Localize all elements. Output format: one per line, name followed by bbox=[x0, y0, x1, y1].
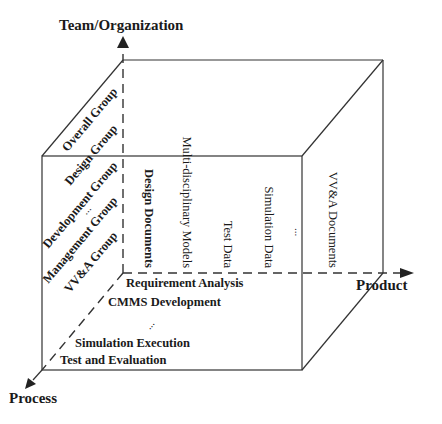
cube-diagram: Team/Organization Product Process Overal… bbox=[0, 0, 442, 424]
process-axis-label: Process bbox=[9, 390, 57, 406]
process-label: Simulation Execution bbox=[75, 336, 190, 350]
top-right-diagonal bbox=[302, 60, 383, 156]
team-groups: Overall Group Design Group Development G… bbox=[40, 85, 120, 296]
process-axis bbox=[33, 370, 42, 380]
process-label: Requirement Analysis bbox=[126, 276, 244, 290]
team-axis-label: Team/Organization bbox=[59, 17, 184, 33]
product-ellipsis: ... bbox=[293, 228, 305, 237]
process-label: Test and Evaluation bbox=[60, 353, 167, 367]
product-axis-label: Product bbox=[356, 277, 407, 293]
process-ellipsis: ... bbox=[142, 317, 157, 331]
product-label: Simulation Data bbox=[262, 186, 276, 268]
product-label: VV&A Documents bbox=[326, 172, 340, 268]
product-label: Test Data bbox=[221, 221, 235, 269]
process-axis-arrowhead-icon bbox=[25, 378, 36, 389]
process-label: CMMS Development bbox=[108, 295, 222, 309]
team-axis-arrowhead-icon bbox=[117, 36, 129, 48]
team-group-label: Overall Group bbox=[59, 85, 120, 154]
product-label: Multi-disciplinary Models bbox=[180, 136, 194, 268]
product-label: Design Documents bbox=[142, 169, 156, 268]
processes: Requirement Analysis CMMS Development ..… bbox=[60, 276, 244, 367]
